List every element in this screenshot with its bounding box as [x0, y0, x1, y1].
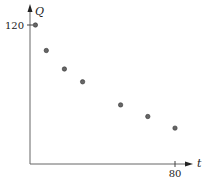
data-point	[146, 114, 150, 118]
y-tick-label: 120	[5, 20, 24, 31]
x-tick-label: 80	[169, 168, 182, 179]
y-axis-label: Q	[35, 5, 44, 18]
chart: 120 Q 80 t	[0, 0, 215, 187]
y-axis: 120 Q	[5, 4, 44, 164]
x-axis: 80 t	[30, 157, 202, 179]
data-point	[62, 67, 66, 71]
x-axis-arrow-icon	[185, 162, 193, 167]
x-axis-label: t	[197, 157, 202, 170]
data-point	[33, 23, 37, 27]
data-points	[33, 23, 177, 131]
data-point	[118, 103, 122, 107]
data-point	[80, 80, 84, 84]
y-axis-arrow-icon	[28, 4, 33, 12]
data-point	[173, 126, 177, 130]
data-point	[44, 48, 48, 52]
